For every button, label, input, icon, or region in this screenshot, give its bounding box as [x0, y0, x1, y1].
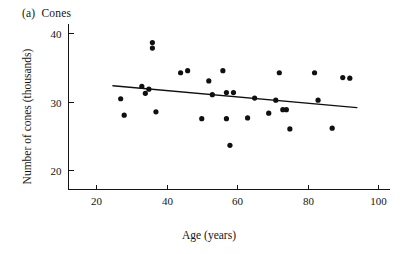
x-tick-label: 80 [303, 195, 315, 207]
data-point [231, 90, 236, 95]
y-axis-ticks: 203040 [51, 28, 74, 177]
data-point [122, 113, 127, 118]
data-point [224, 116, 229, 121]
x-tick-label: 60 [232, 195, 244, 207]
data-point [287, 126, 292, 131]
data-point [245, 115, 250, 120]
data-point [340, 75, 345, 80]
data-point [284, 107, 289, 112]
data-point [227, 143, 232, 148]
x-tick-label: 20 [91, 195, 103, 207]
figure-panel: (a)Cones Number of cones (thousands) Age… [0, 0, 408, 254]
data-point [185, 68, 190, 73]
y-tick-label: 30 [51, 97, 63, 109]
data-point [150, 45, 155, 50]
data-point [199, 116, 204, 121]
data-point [178, 70, 183, 75]
data-point [315, 98, 320, 103]
data-points-group [118, 40, 352, 148]
data-point [312, 70, 317, 75]
data-point [220, 68, 225, 73]
scatter-plot-canvas: 20406080100 203040 [0, 0, 408, 254]
data-point [277, 70, 282, 75]
y-tick-label: 40 [51, 28, 63, 40]
data-point [224, 90, 229, 95]
x-tick-label: 100 [370, 195, 387, 207]
data-point [206, 78, 211, 83]
data-point [330, 126, 335, 131]
data-point [347, 76, 352, 81]
data-point [118, 96, 123, 101]
data-point [266, 111, 271, 116]
x-axis-ticks: 20406080100 [91, 185, 387, 207]
data-point [150, 40, 155, 45]
y-tick-label: 20 [51, 165, 63, 177]
x-tick-label: 40 [162, 195, 174, 207]
regression-fit-line [113, 86, 357, 108]
data-point [153, 109, 158, 114]
data-point [143, 91, 148, 96]
